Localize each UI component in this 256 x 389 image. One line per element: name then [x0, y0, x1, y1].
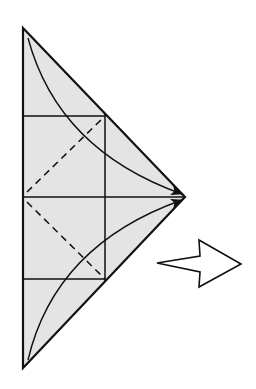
paper-triangle — [23, 28, 185, 368]
diagram-canvas — [0, 0, 256, 389]
origami-diagram: Triangle with crease lines; fold top and… — [0, 0, 256, 389]
next-step-arrow-icon — [157, 240, 241, 287]
